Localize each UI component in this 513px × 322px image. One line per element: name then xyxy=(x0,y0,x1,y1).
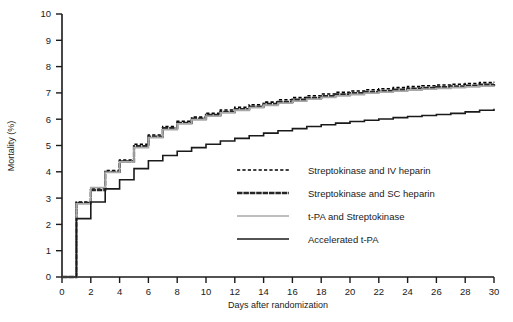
data-series-group xyxy=(62,82,494,277)
y-tick-label: 7 xyxy=(46,87,51,98)
mortality-chart-figure: 012345678910 024681012141618202224262830… xyxy=(0,0,513,322)
kaplan-meier-plot: 012345678910 024681012141618202224262830… xyxy=(0,0,513,322)
x-tick-label: 30 xyxy=(489,286,500,297)
x-tick-label: 6 xyxy=(146,286,151,297)
x-tick-label: 4 xyxy=(117,286,122,297)
y-tick-label: 6 xyxy=(46,114,51,125)
x-tick-label: 24 xyxy=(402,286,413,297)
y-tick-label: 0 xyxy=(46,271,51,282)
x-tick-label: 16 xyxy=(287,286,298,297)
y-tick-label: 1 xyxy=(46,245,51,256)
x-tick-label: 14 xyxy=(258,286,269,297)
legend-label-2: t-PA and Streptokinase xyxy=(308,211,404,222)
x-axis-tick-labels: 024681012141618202224262830 xyxy=(59,286,499,297)
x-axis-ticks xyxy=(62,277,494,283)
y-tick-label: 3 xyxy=(46,193,51,204)
x-tick-label: 26 xyxy=(431,286,442,297)
y-tick-label: 8 xyxy=(46,61,51,72)
y-tick-label: 5 xyxy=(46,140,51,151)
x-tick-label: 18 xyxy=(316,286,327,297)
series-line-2 xyxy=(62,86,494,277)
legend-label-0: Streptokinase and IV heparin xyxy=(308,165,431,176)
x-tick-label: 28 xyxy=(460,286,471,297)
x-tick-label: 8 xyxy=(175,286,180,297)
y-tick-label: 2 xyxy=(46,219,51,230)
chart-legend: Streptokinase and IV heparinStreptokinas… xyxy=(237,165,435,245)
x-tick-label: 2 xyxy=(88,286,93,297)
legend-label-1: Streptokinase and SC heparin xyxy=(308,188,435,199)
legend-label-3: Accelerated t-PA xyxy=(308,234,379,245)
y-axis-ticks xyxy=(56,14,62,277)
y-axis-tick-labels: 012345678910 xyxy=(40,8,51,282)
y-tick-label: 9 xyxy=(46,35,51,46)
x-tick-label: 22 xyxy=(374,286,385,297)
x-tick-label: 12 xyxy=(230,286,241,297)
y-tick-label: 10 xyxy=(40,8,51,19)
x-tick-label: 0 xyxy=(59,286,64,297)
axis-lines xyxy=(62,14,494,277)
y-tick-label: 4 xyxy=(46,166,51,177)
y-axis-title: Mortality (%) xyxy=(6,121,16,172)
x-tick-label: 10 xyxy=(201,286,212,297)
x-tick-label: 20 xyxy=(345,286,356,297)
x-axis-title: Days after randomization xyxy=(228,300,328,310)
